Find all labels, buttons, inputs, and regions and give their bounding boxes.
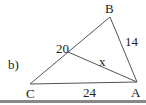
length-24-label: 24 <box>83 86 96 99</box>
triangle-drawing <box>0 0 146 105</box>
length-14-label: 14 <box>125 35 138 48</box>
vertex-c-label: C <box>26 87 35 100</box>
problem-label: b) <box>8 58 19 71</box>
length-20-label: 20 <box>56 42 69 55</box>
side-ca <box>30 82 137 84</box>
side-cb <box>30 17 110 84</box>
geometry-figure: b) B C A 20 14 24 x <box>0 0 146 105</box>
bottom-divider <box>0 100 146 103</box>
vertex-b-label: B <box>105 2 114 15</box>
unknown-x-label: x <box>99 55 106 68</box>
vertex-a-label: A <box>131 86 140 99</box>
